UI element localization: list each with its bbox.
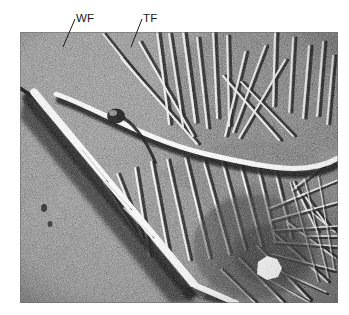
- electron-micrograph-image: [20, 32, 338, 303]
- figure-root: WF TF: [0, 0, 349, 315]
- annotation-label-wf: WF: [76, 13, 94, 25]
- annotation-label-tf: TF: [143, 13, 157, 25]
